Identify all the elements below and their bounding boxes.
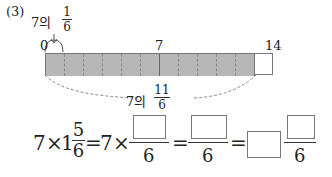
eq-equals-2: =	[172, 133, 189, 153]
tick-14: 14	[265, 38, 282, 53]
eq-equals-3: =	[230, 133, 247, 153]
eq-lhs: 7	[33, 133, 46, 153]
segment	[65, 54, 84, 76]
segment	[122, 54, 141, 76]
bottom-denominator: 6	[158, 99, 166, 111]
fraction-bar	[188, 142, 228, 143]
segment	[103, 54, 122, 76]
segment	[198, 54, 217, 76]
segment	[236, 54, 255, 76]
fraction-bar	[284, 142, 316, 143]
tick-0: 0	[40, 38, 48, 53]
tick-7: 7	[155, 38, 163, 53]
top-numerator: 1	[63, 6, 71, 18]
segment	[217, 54, 236, 76]
eq-mixed-fraction: 5 6	[72, 121, 85, 160]
fraction-bar-model	[45, 53, 273, 75]
fraction-bar	[129, 142, 169, 143]
mixed-denominator: 6	[73, 142, 84, 160]
denominator-2: 6	[202, 146, 213, 166]
segment	[160, 54, 179, 76]
answer-box-numerator-1[interactable]	[133, 115, 166, 139]
bottom-numerator: 11	[154, 84, 169, 96]
top-denominator: 6	[63, 21, 71, 33]
bottom-fraction: 11 6	[154, 84, 170, 111]
answer-box-numerator-2[interactable]	[191, 115, 227, 139]
top-label-prefix: 7의	[31, 12, 51, 31]
answer-box-whole[interactable]	[247, 131, 281, 158]
answer-box-numerator-3[interactable]	[287, 115, 315, 139]
eq-rhs-whole: 7	[100, 133, 113, 153]
mixed-numerator: 5	[73, 121, 84, 139]
eq-times-2: ×	[113, 133, 130, 153]
problem-number: (3)	[6, 4, 24, 19]
denominator-3: 6	[294, 146, 305, 166]
bottom-label-prefix: 7의	[126, 91, 146, 110]
segment	[179, 54, 198, 76]
segment	[141, 54, 160, 76]
equation: 7 × 1 5 6 = 7 × 6 = 6 = 6	[0, 115, 332, 177]
segment	[46, 54, 65, 76]
denominator-1: 6	[143, 146, 154, 166]
top-fraction: 1 6	[62, 6, 72, 33]
segment	[84, 54, 103, 76]
bottom-arc-icon	[44, 74, 258, 102]
